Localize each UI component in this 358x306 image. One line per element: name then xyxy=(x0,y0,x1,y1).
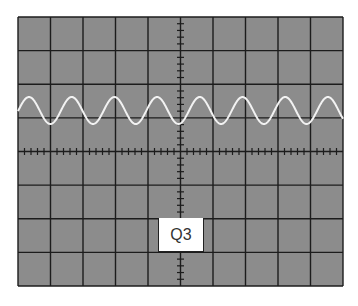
oscilloscope-screen xyxy=(0,0,358,306)
channel-label-box: Q3 xyxy=(158,218,204,252)
channel-label-text: Q3 xyxy=(170,226,191,244)
